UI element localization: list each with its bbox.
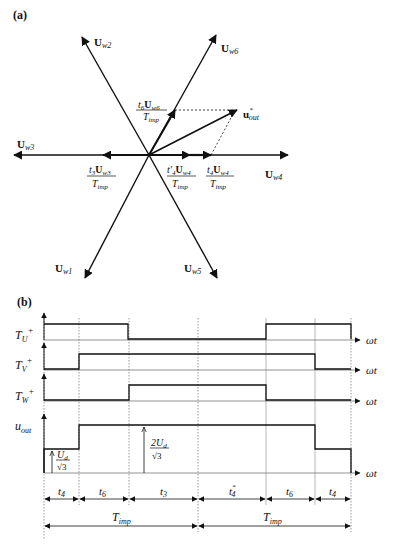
svg-text:t'4Uw4: t'4Uw4 bbox=[167, 164, 191, 177]
time-grid-lines bbox=[44, 318, 351, 540]
label-uw5: Uw5 bbox=[184, 262, 201, 276]
period-dimensions: Timp Timp bbox=[45, 510, 350, 526]
component-fraction-t3: t3Uw3 Timp bbox=[87, 164, 116, 191]
interval-label-t4: t4 bbox=[58, 485, 65, 499]
label-uw3: Uw3 bbox=[17, 138, 34, 152]
label-uout: u*out bbox=[243, 106, 260, 122]
signal-tv: TV+ ωt bbox=[15, 343, 378, 376]
svg-text:Timp: Timp bbox=[210, 178, 227, 191]
axis-label-wt-tv: ωt bbox=[366, 364, 378, 376]
component-fraction-t4: t4Uw4 Timp bbox=[206, 164, 234, 191]
svg-text:Timp: Timp bbox=[143, 111, 160, 124]
label-tw: TW+ bbox=[15, 386, 34, 405]
period-label-timp-2: Timp bbox=[263, 510, 282, 526]
panel-b-label: (b) bbox=[17, 295, 32, 309]
level-high-fraction: 2Ud √3 bbox=[150, 437, 169, 461]
label-uw1: Uw1 bbox=[55, 262, 72, 276]
figure: (a) Uw2 Uw6 Uw3 Uw4 Uw1 Uw5 u*out t6Uw6 … bbox=[0, 0, 393, 546]
component-fraction-t6: t6Uw6 Timp bbox=[136, 99, 167, 124]
vector-uw2 bbox=[82, 37, 149, 155]
label-tv: TV+ bbox=[15, 355, 33, 374]
label-uw6: Uw6 bbox=[221, 42, 238, 56]
period-label-timp-1: Timp bbox=[112, 510, 131, 526]
panel-a-label: (a) bbox=[13, 8, 27, 22]
svg-text:Timp: Timp bbox=[172, 178, 189, 191]
axis-label-wt-uout: ωt bbox=[366, 467, 378, 479]
label-uout: uout bbox=[15, 419, 32, 435]
svg-text:Timp: Timp bbox=[92, 178, 109, 191]
interval-label-t3: t3 bbox=[160, 485, 167, 499]
label-uw2: Uw2 bbox=[94, 36, 111, 50]
component-fraction-t4-prime: t'4Uw4 Timp bbox=[167, 164, 196, 191]
axis-label-wt-tw: ωt bbox=[366, 395, 378, 407]
level-low-fraction: Ud √3 bbox=[56, 449, 70, 472]
signal-uout: uout ωt Ud √3 2Ud √3 bbox=[15, 414, 378, 479]
signal-tw: TW+ ωt bbox=[15, 374, 378, 407]
svg-text:√3: √3 bbox=[152, 451, 162, 461]
interval-dimensions: t4 t6 t3 t*4 t6 t4 bbox=[45, 483, 350, 499]
label-tu: TU+ bbox=[15, 325, 34, 344]
space-vector-hexagon-diagram bbox=[14, 35, 288, 278]
svg-text:t4Uw4: t4Uw4 bbox=[207, 164, 229, 177]
svg-text:√3: √3 bbox=[57, 462, 67, 472]
interval-label-t6: t6 bbox=[99, 485, 106, 499]
interval-label-t4-star: t*4 bbox=[229, 483, 236, 499]
interval-label-t6-2: t6 bbox=[286, 485, 293, 499]
signal-tu: TU+ ωt bbox=[15, 313, 378, 346]
svg-text:t3Uw3: t3Uw3 bbox=[89, 164, 111, 177]
interval-label-t4-2: t4 bbox=[329, 485, 336, 499]
axis-label-wt-tu: ωt bbox=[366, 334, 378, 346]
label-uw4: Uw4 bbox=[265, 168, 282, 182]
